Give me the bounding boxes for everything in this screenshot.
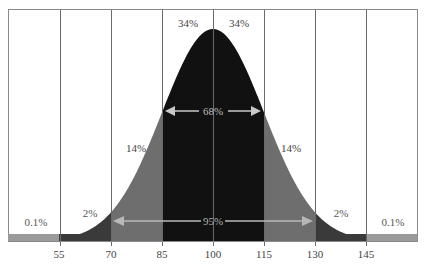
x-tick-85: 85 bbox=[157, 248, 169, 260]
label-34-left: 34% bbox=[178, 17, 198, 29]
label-2-left: 2% bbox=[83, 207, 98, 219]
label-14-right: 14% bbox=[281, 142, 301, 154]
x-tick-70: 70 bbox=[106, 248, 118, 260]
label-2-right: 2% bbox=[334, 207, 349, 219]
label-0.1-right: 0.1% bbox=[382, 216, 405, 228]
label-95-percent: 95% bbox=[203, 215, 223, 227]
label-68-percent: 68% bbox=[203, 105, 223, 117]
x-tick-145: 145 bbox=[358, 248, 375, 260]
x-tick-130: 130 bbox=[307, 248, 324, 260]
normal-distribution-chart: 0.1% 2% 14% 34% 34% 14% 2% 0.1% 68% 95% … bbox=[0, 0, 424, 264]
x-tick-115: 115 bbox=[256, 248, 273, 260]
label-0.1-left: 0.1% bbox=[25, 216, 48, 228]
x-tick-55: 55 bbox=[54, 248, 66, 260]
label-14-left: 14% bbox=[126, 142, 146, 154]
label-34-right: 34% bbox=[229, 17, 249, 29]
x-tick-100: 100 bbox=[205, 248, 222, 260]
